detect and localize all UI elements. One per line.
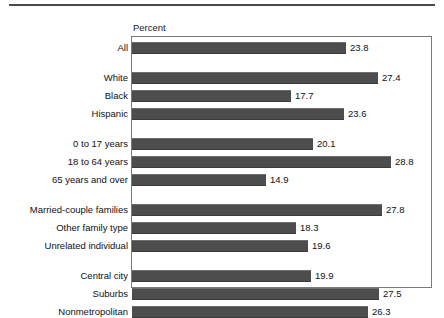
bar-value-label: 27.4 [382, 71, 401, 84]
table-row: White27.4 [0, 72, 444, 84]
bar-category-label: 65 years and over [0, 173, 128, 186]
bar [132, 42, 346, 54]
bar-category-label: 0 to 17 years [0, 137, 128, 150]
bar-category-label: All [0, 41, 128, 54]
table-row: Suburbs27.5 [0, 288, 444, 300]
bar [132, 108, 344, 120]
bar [132, 306, 368, 318]
bar-category-label: 18 to 64 years [0, 155, 128, 168]
table-row: Other family type18.3 [0, 222, 444, 234]
bar-value-label: 18.3 [300, 221, 319, 234]
bar-rows: All23.8White27.4Black17.7Hispanic23.60 t… [0, 36, 444, 288]
table-row: 18 to 64 years28.8 [0, 156, 444, 168]
bar-category-label: Unrelated individual [0, 239, 128, 252]
bar [132, 222, 296, 234]
bar-category-label: Married-couple families [0, 203, 128, 216]
bar [132, 270, 311, 282]
bar [132, 240, 308, 252]
table-row: Nonmetropolitan26.3 [0, 306, 444, 318]
bar [132, 156, 391, 168]
bar [132, 72, 378, 84]
x-axis-title: Percent [133, 22, 166, 33]
table-row: Central city19.9 [0, 270, 444, 282]
bar-value-label: 20.1 [317, 137, 336, 150]
bar-category-label: Nonmetropolitan [0, 305, 128, 318]
table-row: Hispanic23.6 [0, 108, 444, 120]
table-row: 65 years and over14.9 [0, 174, 444, 186]
bar-value-label: 27.5 [383, 287, 402, 300]
header-divider [9, 4, 435, 6]
bar [132, 204, 382, 216]
table-row: Black17.7 [0, 90, 444, 102]
table-row: 0 to 17 years20.1 [0, 138, 444, 150]
bar [132, 288, 379, 300]
bar-value-label: 17.7 [295, 89, 314, 102]
table-row: Unrelated individual19.6 [0, 240, 444, 252]
bar [132, 90, 291, 102]
table-row: Married-couple families27.8 [0, 204, 444, 216]
bar-value-label: 26.3 [372, 305, 391, 318]
bar-category-label: Suburbs [0, 287, 128, 300]
bar-category-label: Other family type [0, 221, 128, 234]
bar [132, 138, 313, 150]
bar-category-label: Black [0, 89, 128, 102]
bar-value-label: 14.9 [270, 173, 289, 186]
bar [132, 174, 266, 186]
bar-value-label: 19.9 [315, 269, 334, 282]
bar-value-label: 19.6 [312, 239, 331, 252]
bar-category-label: Hispanic [0, 107, 128, 120]
bar-category-label: Central city [0, 269, 128, 282]
bar-value-label: 23.8 [350, 41, 369, 54]
table-row: All23.8 [0, 42, 444, 54]
bar-value-label: 23.6 [348, 107, 367, 120]
bar-category-label: White [0, 71, 128, 84]
bar-value-label: 27.8 [386, 203, 405, 216]
bar-value-label: 28.8 [395, 155, 414, 168]
